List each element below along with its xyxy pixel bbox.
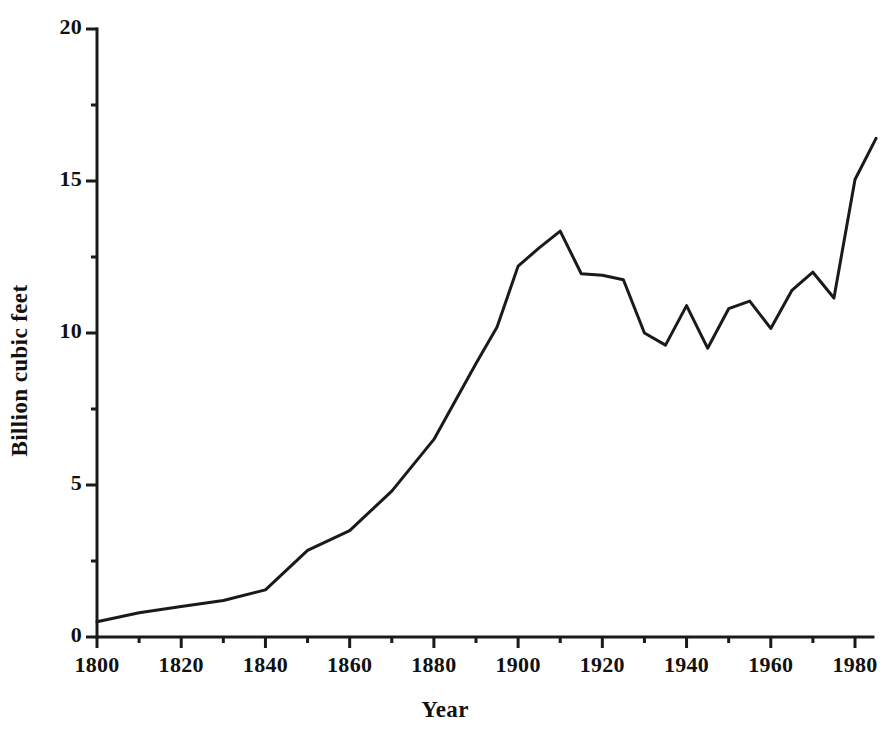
x-tick-label: 1960 [726,652,816,678]
line-chart-canvas [0,0,890,741]
axis-group [86,29,873,648]
x-tick-label: 1860 [305,652,395,678]
x-tick-label: 1940 [642,652,732,678]
x-tick-label: 1880 [389,652,479,678]
x-tick-label: 1840 [220,652,310,678]
x-tick-label: 1900 [473,652,563,678]
data-series-group [97,138,876,621]
x-axis-title: Year [0,697,890,723]
x-tick-marks [97,637,855,648]
chart-figure: 05101520 1800182018401860188019001920194… [0,0,890,741]
x-tick-label: 1800 [52,652,142,678]
x-tick-label: 1980 [810,652,890,678]
data-line-series-1 [97,138,876,621]
x-tick-label: 1920 [557,652,647,678]
y-axis-title: Billion cubic feet [0,0,40,741]
x-tick-label: 1820 [136,652,226,678]
y-tick-marks [86,29,97,637]
